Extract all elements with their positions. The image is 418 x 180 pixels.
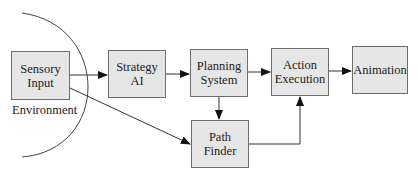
node-animation: Animation (352, 46, 408, 94)
node-label: Strategy AI (116, 60, 158, 88)
node-label: Path Finder (204, 130, 237, 158)
node-label: Planning System (197, 59, 241, 87)
edge-pathfinder-to-action (249, 97, 300, 144)
node-action-execution: Action Execution (271, 48, 329, 96)
node-planning-system: Planning System (190, 49, 248, 97)
node-label: Action Execution (275, 58, 326, 86)
node-strategy-ai: Strategy AI (108, 50, 166, 98)
node-sensory-input: Sensory Input (11, 51, 70, 100)
node-label: Animation (353, 63, 406, 77)
node-label: Sensory Input (20, 62, 60, 90)
node-path-finder: Path Finder (191, 120, 249, 168)
environment-label: Environment (12, 103, 77, 118)
diagram-canvas: Sensory Input Strategy AI Planning Syste… (0, 0, 418, 180)
